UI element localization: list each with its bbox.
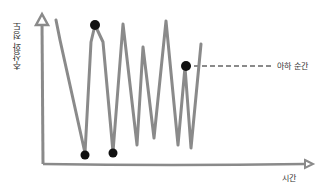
aha-moment-point	[181, 61, 191, 71]
x-axis-arrow-icon	[305, 160, 313, 168]
peak-point	[90, 20, 100, 30]
x-axis-label: 시간	[282, 172, 296, 183]
abstraction-zigzag-line	[56, 20, 201, 153]
y-axis-label: 추상화 정도	[10, 16, 24, 76]
trough-point	[109, 149, 118, 158]
trough-point	[81, 151, 90, 160]
y-axis	[42, 22, 43, 164]
x-axis	[43, 164, 305, 165]
abstraction-diagram	[0, 0, 333, 194]
y-axis-arrow-icon	[36, 14, 48, 25]
aha-moment-label: 아하 순간	[277, 60, 308, 71]
